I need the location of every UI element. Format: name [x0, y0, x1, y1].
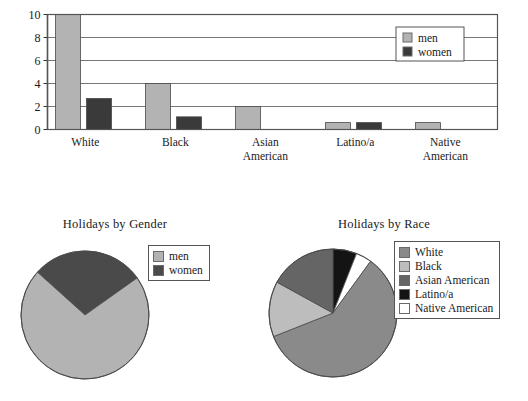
bar-legend-swatch — [403, 33, 412, 42]
bar-chart-legend: menwomen — [396, 27, 464, 61]
bar-men — [56, 15, 81, 130]
bar-legend-swatch — [403, 47, 412, 56]
pie-gender-legend-swatch — [153, 265, 164, 276]
x-category-label-line2: American — [423, 150, 469, 162]
x-category-label: Asian — [252, 136, 279, 148]
pie-race-svg — [266, 243, 401, 383]
pie-gender-slices — [21, 251, 149, 379]
pie-race-legend-label: Black — [415, 259, 442, 273]
pie-chart-race-panel: Holidays by Race WhiteBlackAsian America… — [264, 205, 528, 401]
pie-gender-legend-row: women — [153, 263, 203, 277]
pie-race-legend-swatch — [399, 275, 410, 286]
bar-chart: 0246810 WhiteBlackAsianAmericanLatino/aN… — [0, 0, 528, 175]
y-tick-label: 2 — [35, 100, 41, 114]
bar-women — [87, 98, 112, 129]
y-tick-label: 4 — [35, 77, 41, 91]
pie-race-legend-row: Native American — [399, 301, 493, 315]
pie-race-legend-label: Native American — [415, 301, 493, 315]
bar-legend-label: men — [418, 32, 438, 44]
pie-chart-gender-panel: Holidays by Gender menwomen — [0, 205, 264, 401]
bar-chart-svg: 0246810 WhiteBlackAsianAmericanLatino/aN… — [0, 0, 528, 175]
x-category-label-line2: American — [243, 150, 289, 162]
pie-race-legend-swatch — [399, 289, 410, 300]
bar-men — [416, 123, 441, 130]
bar-chart-y-axis: 0246810 — [29, 8, 48, 137]
pie-gender-legend-label: women — [169, 263, 203, 277]
x-category-label: Latino/a — [336, 136, 374, 148]
pie-gender-legend: menwomen — [148, 245, 210, 281]
pie-race-legend-label: White — [415, 245, 443, 259]
bar-chart-bars — [56, 15, 441, 130]
pie-gender-legend-row: men — [153, 249, 203, 263]
x-category-label: White — [71, 136, 99, 148]
pie-gender-svg — [20, 245, 150, 385]
y-tick-label: 10 — [29, 8, 41, 22]
pie-gender-legend-label: men — [169, 249, 189, 263]
pie-race-legend-row: Asian American — [399, 273, 493, 287]
pie-race-legend-row: Latino/a — [399, 287, 493, 301]
bar-men — [146, 84, 171, 130]
x-category-label: Native — [430, 136, 461, 148]
bar-men — [236, 107, 261, 130]
y-tick-label: 6 — [35, 54, 41, 68]
pie-race-slices — [269, 249, 397, 377]
bar-women — [357, 123, 382, 130]
pie-gender-legend-swatch — [153, 251, 164, 262]
pie-race-legend-swatch — [399, 261, 410, 272]
pie-charts-section: Holidays by Gender menwomen Holidays by … — [0, 205, 528, 401]
pie-gender-title: Holidays by Gender — [0, 217, 230, 232]
pie-race-title: Holidays by Race — [264, 217, 504, 232]
pie-race-legend-label: Latino/a — [415, 287, 453, 301]
pie-race-legend-row: Black — [399, 259, 493, 273]
pie-race-legend: WhiteBlackAsian AmericanLatino/aNative A… — [394, 241, 500, 319]
pie-race-legend-swatch — [399, 303, 410, 314]
pie-race-legend-label: Asian American — [415, 273, 489, 287]
bar-chart-category-labels: WhiteBlackAsianAmericanLatino/aNativeAme… — [71, 136, 468, 162]
bar-men — [326, 123, 351, 130]
x-category-label: Black — [162, 136, 189, 148]
bar-legend-label: women — [418, 46, 452, 58]
y-tick-label: 8 — [35, 31, 41, 45]
pie-race-legend-row: White — [399, 245, 493, 259]
y-tick-label: 0 — [35, 123, 41, 137]
bar-women — [177, 117, 202, 130]
pie-race-legend-swatch — [399, 247, 410, 258]
